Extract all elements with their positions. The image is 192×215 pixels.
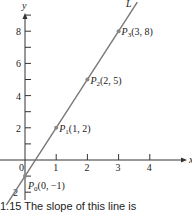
x-tick-label: 2 (84, 162, 89, 173)
y-axis-label: y (21, 0, 27, 11)
line-L-label: L (125, 0, 132, 9)
data-point (85, 78, 89, 82)
y-axis-arrow-icon (23, 13, 28, 19)
y-tick-label: 2 (16, 123, 21, 134)
y-tick-label: 4 (16, 91, 21, 102)
y-tick-label: 8 (16, 26, 21, 37)
point-label: P1(1, 2) (58, 123, 90, 136)
x-axis-label: x (188, 154, 192, 165)
x-tick-label: 4 (147, 162, 152, 173)
data-point (117, 29, 121, 33)
x-tick-label: 0 (19, 162, 24, 173)
y-tick-label: 6 (16, 58, 21, 69)
x-tick-label: 1 (53, 162, 58, 173)
data-point (54, 126, 58, 130)
point-label: P2(2, 5) (89, 75, 121, 88)
x-axis-arrow-icon (181, 158, 187, 163)
figure-caption: 1.15 The slope of this line is (0, 200, 192, 212)
x-tick-label: 3 (116, 162, 121, 173)
data-point (23, 174, 27, 178)
line-chart: xy0123422468LP0(0, −1)P1(1, 2)P2(2, 5)P3… (0, 0, 192, 215)
point-label: P0(0, −1) (27, 180, 65, 193)
point-label: P3(3, 8) (121, 26, 153, 39)
